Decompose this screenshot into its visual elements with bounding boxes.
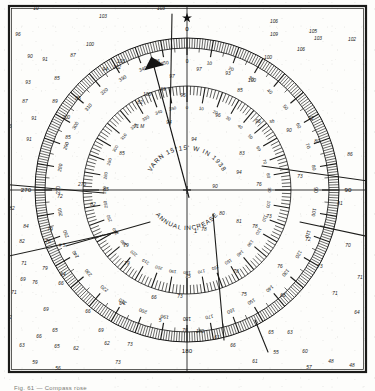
sounding-value: 90 <box>212 184 218 189</box>
sounding-value: 106 <box>297 47 305 52</box>
sounding-value: 71 <box>21 261 27 266</box>
sounding-value: 81 <box>337 201 343 206</box>
true-ring-degree-label: 10 <box>206 60 213 66</box>
sounding-value: 65 <box>52 328 58 333</box>
sounding-value: 5 <box>159 318 162 323</box>
sounding-value: 84 <box>23 224 29 229</box>
sounding-value: # 5 <box>59 243 66 248</box>
sounding-value: 75 <box>185 274 191 279</box>
true-ring-degree-label: 90 <box>313 187 318 193</box>
sounding-value: 106 <box>143 92 151 97</box>
sounding-value: 57 <box>306 365 312 370</box>
sounding-value: 76 <box>256 182 262 187</box>
sounding-value: 92 <box>308 116 314 121</box>
sounding-value: 80 <box>219 211 225 216</box>
sounding-value: 56 <box>55 366 61 371</box>
sounding-value: 71 M <box>134 124 145 129</box>
sounding-value: 55 <box>273 350 279 355</box>
sounding-value: 60 <box>302 349 308 354</box>
sounding-value: 73 <box>266 214 272 219</box>
sounding-value: 73 <box>127 342 133 347</box>
sounding-value: 48 <box>349 363 355 368</box>
sounding-value: 75 <box>241 292 247 297</box>
sounding-value: 79 <box>42 266 48 271</box>
sounding-value: 96 <box>255 119 261 124</box>
sounding-value: 73 <box>317 264 323 269</box>
sounding-value: 87 <box>70 53 76 58</box>
sounding-value: 66 <box>85 309 91 314</box>
sounding-value: 73 <box>177 294 183 299</box>
sounding-value: 80 <box>314 139 320 144</box>
sounding-value: 109 <box>270 32 278 37</box>
cardinal-degree-label: 180 <box>182 347 193 354</box>
sounding-value: 79 <box>123 243 129 248</box>
sounding-value: 66 <box>151 295 157 300</box>
sounding-value: 97 <box>169 74 175 79</box>
sounding-value: 93 <box>225 71 231 76</box>
sounding-value: 69 <box>43 307 49 312</box>
sounding-value: 90 <box>27 54 33 59</box>
sounding-value: 94 <box>166 120 172 125</box>
cardinal-degree-label: 90 <box>345 186 352 193</box>
sounding-value: 82 <box>19 239 25 244</box>
chart-scan-canvas: 0102030405060708090100110120130140150160… <box>0 0 375 391</box>
magnetic-ring-degree-label: 90 <box>267 188 272 193</box>
sounding-value: 66 <box>280 293 286 298</box>
figure-caption: Fig. 61 — Compass rose <box>14 385 87 391</box>
sounding-value: 89 <box>160 87 166 92</box>
sounding-value: 91 <box>26 137 32 142</box>
sounding-value: 85 <box>119 151 125 156</box>
sounding-value: 71 <box>332 291 338 296</box>
sounding-value: 48 <box>328 359 334 364</box>
sounding-value: 73 <box>115 360 121 365</box>
sounding-value: 106 <box>270 19 278 24</box>
sounding-value: 79 <box>47 227 53 232</box>
sounding-value: 93 <box>25 80 31 85</box>
sounding-value: 96 <box>15 32 21 37</box>
sounding-value: 70 <box>345 243 351 248</box>
cardinal-degree-label: 270 <box>21 186 32 193</box>
sounding-value: 61 <box>214 335 220 340</box>
sounding-value: 103 <box>314 36 322 41</box>
true-ring-degree-label: 180 <box>183 316 191 321</box>
sounding-value: 102 <box>348 37 356 42</box>
sounding-value: 82 <box>90 202 96 207</box>
sounding-value: 65 <box>268 330 274 335</box>
sounding-value: 63 <box>287 330 293 335</box>
sounding-value: 81 <box>236 219 242 224</box>
sounding-value: 83 <box>239 151 245 156</box>
sounding-value: 62 <box>73 346 79 351</box>
annual-increase-value: 1' <box>194 228 198 234</box>
sounding-value: 96 <box>154 59 160 64</box>
sounding-value: 64 <box>60 272 66 277</box>
sounding-value: 66 <box>230 343 236 348</box>
sounding-value: 82 <box>9 206 15 211</box>
sounding-value: 59 <box>32 360 38 365</box>
sounding-value: 78 <box>201 227 207 232</box>
sounding-value: 78 <box>233 269 239 274</box>
sounding-value: 76 <box>182 328 188 333</box>
sounding-value: 96 <box>215 113 221 118</box>
sounding-value: 69 <box>98 328 104 333</box>
sounding-value: 64 <box>119 301 125 306</box>
sounding-value: 72 <box>57 194 63 199</box>
sounding-value: 73 <box>297 174 303 179</box>
sounding-value: 100 <box>264 55 272 60</box>
sounding-value: sh <box>269 119 274 124</box>
sounding-value: 90 <box>286 128 292 133</box>
sounding-value: 10 <box>33 6 39 11</box>
sounding-value: 76 <box>45 239 51 244</box>
sounding-value: 100 <box>86 42 94 47</box>
sounding-value: 94 <box>191 137 197 142</box>
sounding-value: 85 <box>54 76 60 81</box>
cardinal-degree-label: 0 <box>185 25 189 32</box>
sounding-value: 105 <box>309 29 317 34</box>
true-ring-degree-label: 0 <box>186 59 189 64</box>
sounding-value: 82 <box>137 100 143 105</box>
sounding-value: 94 <box>102 67 108 72</box>
sounding-value: 78 <box>252 224 258 229</box>
sounding-value: 85 <box>75 96 81 101</box>
sounding-value: 100 <box>248 78 256 83</box>
sounding-value: 200 <box>61 115 70 120</box>
sounding-value: 64 <box>354 310 360 315</box>
